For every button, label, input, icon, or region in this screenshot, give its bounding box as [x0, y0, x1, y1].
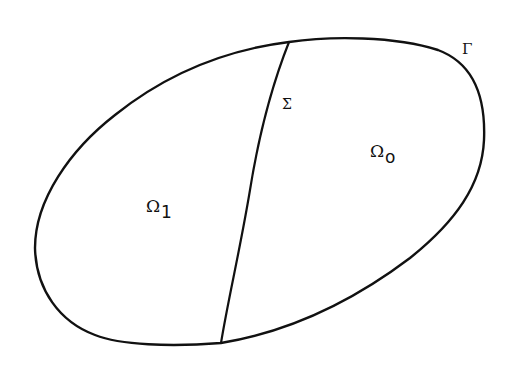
interface-label-sigma: Σ [282, 97, 292, 111]
boundary-label-gamma: Γ [462, 42, 472, 57]
omega-subscript: o [385, 147, 395, 167]
omega-symbol: Ω [146, 196, 160, 216]
omega-subscript: 1 [161, 202, 172, 222]
region-label-omega-0: Ωo [370, 143, 396, 160]
interface-curve [221, 42, 289, 343]
omega-symbol: Ω [370, 141, 384, 161]
domain-diagram [0, 0, 515, 372]
sigma-symbol: Σ [282, 96, 292, 112]
gamma-symbol: Γ [462, 40, 472, 58]
outer-boundary-curve [35, 38, 484, 345]
region-label-omega-1: Ω1 [146, 198, 172, 215]
